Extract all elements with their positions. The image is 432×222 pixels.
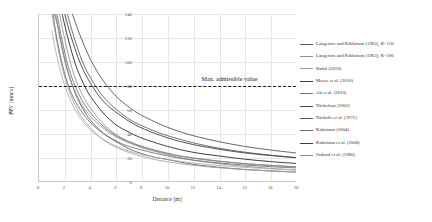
legend-item-label: Langefors and Kihlstrom (1963), K=150 bbox=[316, 42, 394, 47]
x-tick-label: 14 bbox=[209, 185, 229, 190]
legend-color-swatch bbox=[300, 93, 313, 94]
series-line bbox=[53, 14, 296, 168]
y-tick-label: 0 bbox=[104, 180, 132, 185]
legend-item: Langefors and Kihlstrom (1963), K=150 bbox=[300, 38, 432, 50]
x-tick-label: 2 bbox=[54, 185, 74, 190]
x-tick-label: 12 bbox=[183, 185, 203, 190]
x-tick-label: 4 bbox=[80, 185, 100, 190]
legend-item-label: Badal (2010) bbox=[316, 67, 341, 72]
x-axis-label: Distance [m] bbox=[38, 196, 296, 202]
series-line bbox=[60, 14, 296, 170]
legend-item-label: Kahriman et al. (2006) bbox=[316, 141, 360, 146]
y-tick-label: 100 bbox=[104, 60, 132, 65]
chart-legend: Langefors and Kihlstrom (1963), K=150Lan… bbox=[300, 38, 432, 162]
legend-color-swatch bbox=[300, 56, 313, 57]
y-tick-label: 120 bbox=[104, 36, 132, 41]
legend-item: Nicholson (2005) bbox=[300, 100, 432, 112]
x-tick-label: 16 bbox=[234, 185, 254, 190]
legend-item-label: Nicholls et al. (1971) bbox=[316, 116, 357, 121]
max-admissible-label: Max. admissible value bbox=[202, 75, 258, 82]
x-tick-label: 8 bbox=[131, 185, 151, 190]
legend-color-swatch bbox=[300, 118, 313, 119]
series-line bbox=[56, 14, 296, 167]
legend-item-label: Kahriman (2004) bbox=[316, 128, 349, 133]
x-tick-label: 18 bbox=[260, 185, 280, 190]
chart-figure: PPV [mm/s] Max. admissible value 0204060… bbox=[0, 0, 432, 222]
legend-item: Mesec et al. (2010) bbox=[300, 75, 432, 87]
series-curves bbox=[39, 14, 296, 181]
legend-item-label: Nicholson (2005) bbox=[316, 104, 350, 109]
legend-item: Nicholls et al. (1971) bbox=[300, 112, 432, 124]
legend-color-swatch bbox=[300, 81, 313, 82]
y-tick-label: 60 bbox=[104, 108, 132, 113]
legend-item: Badal (2010) bbox=[300, 63, 432, 75]
legend-item-label: Langefors and Kihlstrom (1963), K=200 bbox=[316, 54, 394, 59]
x-tick-label: 6 bbox=[105, 185, 125, 190]
legend-item: Siskind et al. (1980) bbox=[300, 150, 432, 162]
legend-color-swatch bbox=[300, 68, 313, 69]
y-tick-label: 40 bbox=[104, 132, 132, 137]
legend-item: Kahriman et al. (2006) bbox=[300, 137, 432, 149]
x-tick-label: 20 bbox=[286, 185, 306, 190]
legend-item: Kahriman (2004) bbox=[300, 125, 432, 137]
series-line bbox=[57, 14, 296, 167]
legend-color-swatch bbox=[300, 106, 313, 107]
series-line bbox=[52, 31, 296, 170]
max-admissible-line bbox=[39, 86, 296, 87]
x-tick-label: 0 bbox=[28, 185, 48, 190]
y-tick-label: 20 bbox=[104, 156, 132, 161]
legend-item-label: Mesec et al. (2010) bbox=[316, 79, 353, 84]
y-axis-label: PPV [mm/s] bbox=[8, 66, 14, 136]
legend-color-swatch bbox=[300, 44, 313, 45]
legend-item: Ak et al. (2010) bbox=[300, 88, 432, 100]
y-tick-label: 140 bbox=[104, 12, 132, 17]
legend-color-swatch bbox=[300, 143, 313, 144]
legend-item-label: Ak et al. (2010) bbox=[316, 91, 346, 96]
legend-color-swatch bbox=[300, 155, 313, 156]
plot-area: Max. admissible value bbox=[38, 14, 296, 182]
y-tick-label: 80 bbox=[104, 84, 132, 89]
legend-item-label: Siskind et al. (1980) bbox=[316, 153, 355, 158]
x-tick-label: 10 bbox=[157, 185, 177, 190]
legend-color-swatch bbox=[300, 130, 313, 131]
legend-item: Langefors and Kihlstrom (1963), K=200 bbox=[300, 50, 432, 62]
